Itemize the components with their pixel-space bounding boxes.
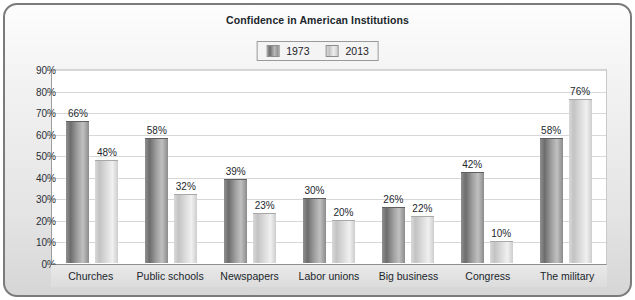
bar-slot: 30%	[303, 71, 326, 263]
y-axis-tick-mark	[47, 92, 51, 93]
bar-slot: 58%	[145, 71, 168, 263]
legend-swatch-1973-icon	[266, 45, 279, 57]
bar-1973[interactable]	[461, 172, 484, 263]
bar-1973[interactable]	[145, 138, 168, 263]
bar-value-label: 39%	[226, 166, 246, 177]
bar-group: 30%20%	[290, 71, 369, 263]
legend-item-2013[interactable]: 2013	[326, 45, 369, 57]
y-axis-tick-mark	[47, 135, 51, 136]
bar-1973[interactable]	[382, 207, 405, 263]
bar-value-label: 20%	[333, 207, 353, 218]
chart-title: Confidence in American Institutions	[5, 14, 630, 26]
bar-value-label: 30%	[304, 185, 324, 196]
chart-frame: Confidence in American Institutions 1973…	[3, 3, 632, 297]
bar-group: 26%22%	[368, 71, 447, 263]
x-axis-category-label: Churches	[51, 265, 130, 287]
bar-2013[interactable]	[411, 216, 434, 263]
bar-value-label: 23%	[255, 200, 275, 211]
bar-slot: 42%	[461, 71, 484, 263]
bar-2013[interactable]	[490, 241, 513, 263]
bar-group: 42%10%	[447, 71, 526, 263]
bar-value-label: 26%	[383, 194, 403, 205]
x-axis-category-label: Labor unions	[289, 265, 368, 287]
bar-slot: 66%	[66, 71, 89, 263]
bar-2013[interactable]	[332, 220, 355, 263]
bar-value-label: 22%	[412, 203, 432, 214]
x-axis-category-label: Congress	[448, 265, 527, 287]
bar-slot: 10%	[490, 71, 513, 263]
bar-2013[interactable]	[569, 99, 592, 263]
y-axis-tick-mark	[47, 178, 51, 179]
bar-value-label: 42%	[462, 159, 482, 170]
bar-slot: 23%	[253, 71, 276, 263]
bar-slot: 32%	[174, 71, 197, 263]
bar-2013[interactable]	[253, 213, 276, 263]
legend-item-1973[interactable]: 1973	[266, 45, 309, 57]
bar-slot: 76%	[569, 71, 592, 263]
bar-value-label: 32%	[176, 181, 196, 192]
bar-slot: 20%	[332, 71, 355, 263]
bar-1973[interactable]	[540, 138, 563, 263]
bar-value-label: 76%	[570, 86, 590, 97]
bar-value-label: 48%	[97, 147, 117, 158]
bar-group: 58%32%	[132, 71, 211, 263]
bar-2013[interactable]	[174, 194, 197, 263]
bar-slot: 26%	[382, 71, 405, 263]
bar-slot: 48%	[95, 71, 118, 263]
bar-value-label: 58%	[541, 125, 561, 136]
x-axis-labels: ChurchesPublic schoolsNewspapersLabor un…	[51, 265, 607, 287]
bar-1973[interactable]	[224, 179, 247, 263]
legend-swatch-2013-icon	[326, 45, 339, 57]
plot-wrapper: 66%48%58%32%39%23%30%20%26%22%42%10%58%7…	[51, 69, 607, 265]
x-axis-category-label: The military	[528, 265, 607, 287]
y-axis-tick-mark	[47, 221, 51, 222]
bar-slot: 39%	[224, 71, 247, 263]
bar-value-label: 66%	[68, 108, 88, 119]
bar-group: 58%76%	[526, 71, 605, 263]
y-axis-tick-mark	[47, 199, 51, 200]
bar-value-label: 10%	[491, 228, 511, 239]
legend-label-1973: 1973	[286, 45, 309, 57]
bar-group: 66%48%	[53, 71, 132, 263]
bar-1973[interactable]	[66, 121, 89, 263]
x-axis-category-label: Big business	[369, 265, 448, 287]
legend-label-2013: 2013	[346, 45, 369, 57]
plot-area: 66%48%58%32%39%23%30%20%26%22%42%10%58%7…	[51, 69, 607, 265]
bar-slot: 22%	[411, 71, 434, 263]
bar-value-label: 58%	[147, 125, 167, 136]
bar-group: 39%23%	[211, 71, 290, 263]
y-axis-tick-mark	[47, 156, 51, 157]
x-axis-category-label: Public schools	[130, 265, 209, 287]
bar-groups: 66%48%58%32%39%23%30%20%26%22%42%10%58%7…	[53, 71, 605, 263]
x-axis-category-label: Newspapers	[210, 265, 289, 287]
bar-1973[interactable]	[303, 198, 326, 263]
y-axis-tick-mark	[47, 242, 51, 243]
y-axis-tick-mark	[47, 70, 51, 71]
bar-2013[interactable]	[95, 160, 118, 263]
chart-legend: 1973 2013	[256, 41, 379, 61]
y-axis-tick-mark	[47, 113, 51, 114]
bar-slot: 58%	[540, 71, 563, 263]
